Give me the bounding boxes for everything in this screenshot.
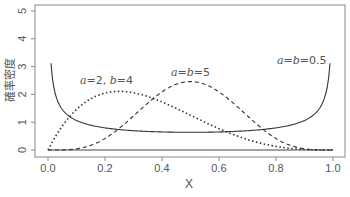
annotation-a2-b4: a=2, b=4 [80,74,133,87]
beta-density-chart: 012345 0.00.20.40.60.81.0 X 確率密度 a=2, b=… [0,0,350,197]
y-axis-label: 確率密度 [3,58,16,102]
y-axis: 012345 [16,8,35,153]
x-tick-label: 0.4 [154,162,169,174]
x-tick-label: 0.2 [97,162,112,174]
y-tick-label: 5 [16,8,28,14]
y-tick-label: 0 [16,147,28,153]
y-tick-label: 1 [16,119,28,125]
x-axis: 0.00.20.40.60.81.0 [40,157,340,174]
y-tick-label: 2 [16,91,28,97]
x-tick-label: 0.8 [268,162,283,174]
curve-a-2-b-4 [48,91,333,150]
x-tick-label: 0.6 [211,162,226,174]
y-tick-label: 3 [16,64,28,70]
x-axis-label: X [185,177,193,191]
x-tick-label: 0.0 [40,162,55,174]
x-tick-label: 1.0 [325,162,340,174]
y-tick-label: 4 [16,36,28,42]
annotation-a05-b05: a=b=0.5 [277,54,327,67]
annotation-a5-b5: a=b=5 [171,66,210,79]
